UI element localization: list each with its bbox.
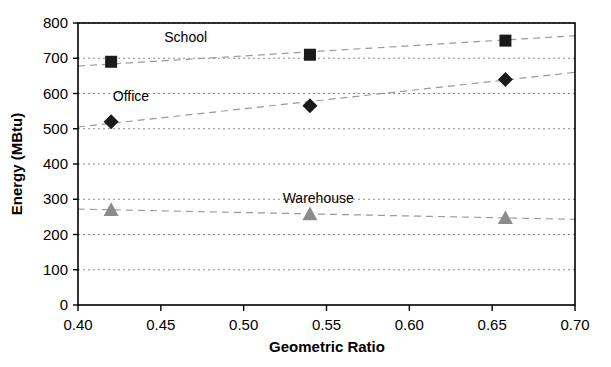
y-axis-tick-label: 100	[43, 261, 68, 278]
x-axis-tick-label: 0.60	[395, 316, 424, 333]
y-axis-tick-label: 300	[43, 190, 68, 207]
series-label-warehouse: Warehouse	[283, 190, 354, 206]
data-point-office	[302, 98, 317, 113]
x-axis-tick-label: 0.70	[560, 316, 589, 333]
x-axis-tick-label: 0.65	[478, 316, 507, 333]
y-axis-title: Energy (MBtu)	[8, 113, 25, 216]
y-axis-tick-label: 200	[43, 226, 68, 243]
data-point-office	[104, 114, 119, 129]
plot-area-frame	[78, 23, 575, 305]
data-point-office	[498, 72, 513, 87]
data-point-school	[499, 35, 511, 47]
data-point-warehouse	[302, 207, 317, 221]
y-axis-tick-label: 400	[43, 155, 68, 172]
tick-marks-group	[73, 23, 575, 311]
data-point-school	[304, 49, 316, 61]
y-axis-tick-label: 800	[43, 14, 68, 31]
x-axis-tick-label: 0.45	[146, 316, 175, 333]
series-label-office: Office	[113, 88, 150, 104]
plot-frame-group	[78, 23, 575, 305]
y-axis-tick-label: 0	[60, 296, 68, 313]
trendline-warehouse	[78, 209, 575, 219]
series-annotations-group: SchoolOfficeWarehouse	[113, 29, 354, 205]
y-axis-tick-label: 700	[43, 49, 68, 66]
series-label-school: School	[164, 29, 207, 45]
gridlines-group	[78, 23, 575, 270]
energy-vs-geometric-ratio-scatter-chart: 0100200300400500600700800 0.400.450.500.…	[0, 0, 611, 367]
x-axis-tick-label: 0.50	[229, 316, 258, 333]
x-axis-title: Geometric Ratio	[269, 338, 385, 355]
x-axis-tick-labels: 0.400.450.500.550.600.650.70	[63, 316, 589, 333]
x-axis-tick-label: 0.55	[312, 316, 341, 333]
chart-container: 0100200300400500600700800 0.400.450.500.…	[0, 0, 611, 367]
y-axis-tick-labels: 0100200300400500600700800	[43, 14, 68, 313]
x-axis-tick-label: 0.40	[63, 316, 92, 333]
y-axis-tick-label: 500	[43, 120, 68, 137]
y-axis-tick-label: 600	[43, 85, 68, 102]
data-point-school	[105, 56, 117, 68]
